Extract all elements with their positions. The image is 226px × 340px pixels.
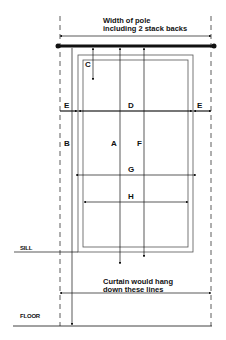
label-C: C — [85, 61, 91, 69]
pole-finial-left — [56, 44, 61, 49]
label-B: B — [64, 140, 70, 148]
pole-finial-right — [212, 44, 217, 49]
floor-label: FLOOR — [20, 313, 40, 319]
label-D: D — [128, 102, 134, 110]
label-G: G — [128, 166, 134, 174]
window-frame-inner — [83, 60, 188, 247]
label-E-right: E — [197, 102, 202, 110]
label-H: H — [128, 193, 134, 201]
label-E-left: E — [64, 102, 69, 110]
curtain-hang-note: Curtain would hang down these lines — [103, 278, 173, 294]
curtain-measurement-diagram: Width of pole including 2 stack backs C … — [0, 0, 226, 340]
window-frame-outer — [78, 55, 193, 252]
sill-label: SILL — [20, 245, 32, 251]
label-F: F — [137, 140, 142, 148]
label-A: A — [111, 140, 117, 148]
curtain-hang-note-line2: down these lines — [103, 286, 173, 294]
pole-width-note-line2: including 2 stack backs — [103, 25, 187, 33]
pole-width-note: Width of pole including 2 stack backs — [103, 17, 187, 33]
